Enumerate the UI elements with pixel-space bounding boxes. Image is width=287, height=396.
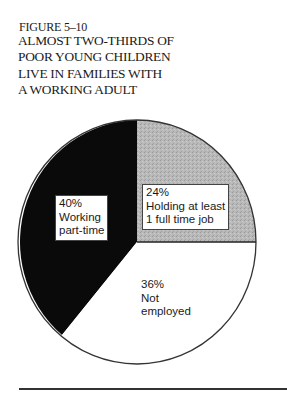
label-text: Not [141,292,191,306]
label-not-employed: 36% Not employed [141,278,191,319]
label-text: Working [59,211,104,225]
label-text: part-time [59,224,104,238]
label-text: employed [141,305,191,319]
label-part-time: 40% Working part-time [55,195,108,241]
divider-rule [19,388,287,390]
label-text: 1 full time job [146,213,225,227]
pct-not-employed: 36% [141,278,191,292]
label-full-time: 24% Holding at least 1 full time job [142,184,229,230]
label-text: Holding at least [146,200,225,214]
pct-part-time: 40% [59,197,104,211]
pct-full-time: 24% [146,186,225,200]
